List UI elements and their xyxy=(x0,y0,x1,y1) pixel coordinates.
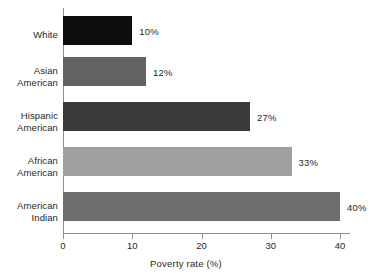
category-label-white: White xyxy=(0,29,58,41)
plot-area: 10% 12% 27% 33% 40% xyxy=(63,10,348,233)
category-label-hispanic-american: Hispanic American xyxy=(0,110,58,133)
category-label-line: White xyxy=(0,29,58,41)
category-label-asian-american: Asian American xyxy=(0,65,58,88)
bar-hispanic-american[interactable] xyxy=(63,102,250,131)
category-label-line: American xyxy=(0,167,58,179)
x-axis-tick-label: 0 xyxy=(60,240,65,251)
x-axis-tick xyxy=(63,234,64,239)
category-label-line: American xyxy=(0,122,58,134)
x-axis-tick xyxy=(340,234,341,239)
category-label-line: American xyxy=(0,77,58,89)
poverty-rate-bar-chart: White Asian American Hispanic American A… xyxy=(0,0,372,278)
x-axis-tick xyxy=(132,234,133,239)
bar-value-american-indian: 40% xyxy=(347,201,367,212)
bar-african-american[interactable] xyxy=(63,147,292,176)
x-axis-tick xyxy=(202,234,203,239)
x-axis-tick-label: 40 xyxy=(335,240,346,251)
category-label-african-american: African American xyxy=(0,155,58,178)
category-label-line: African xyxy=(0,155,58,167)
bar-asian-american[interactable] xyxy=(63,57,146,86)
x-axis-line xyxy=(63,233,350,234)
category-label-line: Asian xyxy=(0,65,58,77)
bar-value-asian-american: 12% xyxy=(153,66,173,77)
bar-american-indian[interactable] xyxy=(63,192,340,221)
x-axis-tick-label: 10 xyxy=(127,240,138,251)
bar-value-hispanic-american: 27% xyxy=(257,111,277,122)
x-axis-tick-label: 20 xyxy=(196,240,207,251)
bar-value-african-american: 33% xyxy=(299,156,319,167)
x-axis-title: Poverty rate (%) xyxy=(0,258,372,269)
bar-value-white: 10% xyxy=(139,25,159,36)
category-label-american-indian: American Indian xyxy=(0,200,58,223)
bar-white[interactable] xyxy=(63,16,132,45)
category-axis-labels: White Asian American Hispanic American A… xyxy=(0,10,58,233)
x-axis-tick-label: 30 xyxy=(265,240,276,251)
x-axis-tick xyxy=(271,234,272,239)
category-label-line: American xyxy=(0,200,58,212)
category-label-line: Hispanic xyxy=(0,110,58,122)
category-label-line: Indian xyxy=(0,212,58,224)
